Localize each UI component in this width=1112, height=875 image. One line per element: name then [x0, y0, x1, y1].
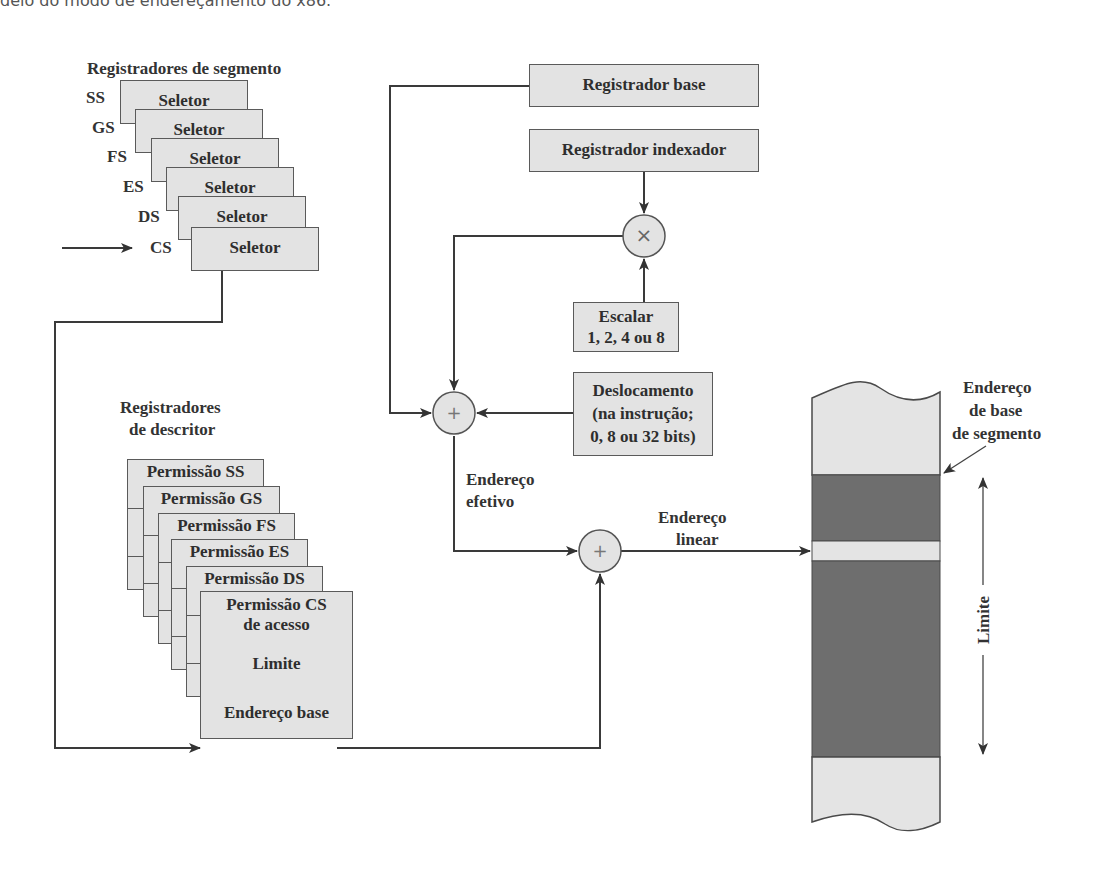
adder-effective-node: + — [433, 392, 475, 434]
descriptor-title-line2: de descritor — [129, 420, 215, 440]
seg-register-cs: Seletor — [191, 227, 319, 271]
effective-address-label-2: efetivo — [466, 492, 514, 512]
svg-text:×: × — [636, 223, 653, 247]
segment-base-label-1: Endereço — [963, 378, 1032, 398]
seg-label-ss: SS — [86, 88, 105, 108]
linear-address-label-1: Endereço — [658, 508, 727, 528]
seg-label-cs: CS — [150, 238, 172, 258]
adder-linear-node: + — [579, 530, 621, 572]
segment-base-label-2: de base — [969, 401, 1022, 421]
svg-text:+: + — [592, 540, 607, 561]
descriptor-base-field: Endereço base — [201, 689, 352, 737]
memory-limit-label: Limite — [974, 595, 993, 644]
seg-label-fs: FS — [107, 147, 127, 167]
multiply-node: × — [623, 215, 665, 257]
descriptor-title-line1: Registradores — [120, 398, 221, 418]
linear-address-label-2: linear — [676, 530, 719, 550]
seg-label-gs: GS — [92, 118, 115, 138]
memory-segment-column — [812, 382, 940, 831]
descriptor-cs: Permissão CS de acesso Limite Endereço b… — [200, 591, 353, 739]
base-register-box: Registrador base — [529, 64, 759, 107]
effective-address-label-1: Endereço — [466, 470, 535, 490]
svg-text:+: + — [446, 402, 461, 423]
segment-base-label-3: de segmento — [952, 424, 1041, 444]
seg-label-es: ES — [123, 177, 144, 197]
scale-box: Escalar 1, 2, 4 ou 8 — [573, 302, 679, 352]
segment-registers-title: Registradores de segmento — [87, 59, 281, 79]
displacement-box: Deslocamento (na instrução; 0, 8 ou 32 b… — [573, 372, 713, 456]
index-register-box: Registrador indexador — [529, 129, 759, 172]
descriptor-limit-field: Limite — [201, 640, 352, 688]
seg-label-ds: DS — [138, 207, 160, 227]
